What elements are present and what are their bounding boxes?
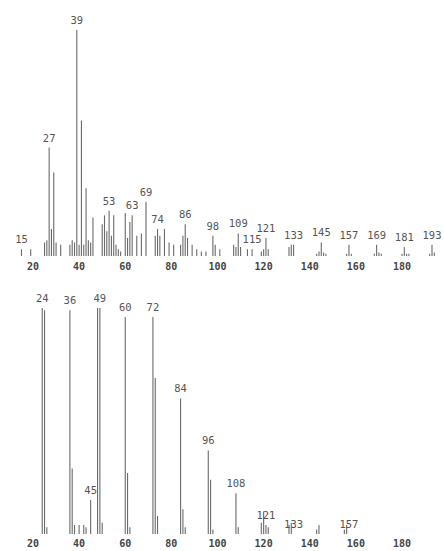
peak-label: 181 <box>395 231 414 243</box>
peak-label: 63 <box>126 199 139 211</box>
x-tick-label: 140 <box>301 261 319 272</box>
peak-label: 45 <box>84 484 97 496</box>
peak-label: 121 <box>256 509 275 521</box>
x-tick-label: 180 <box>393 538 411 549</box>
peak-label: 39 <box>70 14 83 26</box>
peak-label: 193 <box>422 229 441 241</box>
x-tick-label: 100 <box>208 261 226 272</box>
peak-label: 133 <box>284 518 303 530</box>
peak-label: 98 <box>207 220 220 232</box>
x-tick-label: 160 <box>347 538 365 549</box>
peak-label: 157 <box>339 518 358 530</box>
peak-label: 109 <box>229 217 248 229</box>
peak-label: 24 <box>36 292 49 304</box>
peak-label: 121 <box>256 222 275 234</box>
x-tick-label: 60 <box>119 538 131 549</box>
peak-label: 49 <box>94 292 107 304</box>
x-tick-label: 40 <box>73 538 85 549</box>
mass-spectrum-bottom: 2436454960728496108121133157204060801001… <box>0 275 444 551</box>
peak-label: 60 <box>119 301 132 313</box>
peak-label: 69 <box>140 186 153 198</box>
peak-label: 108 <box>226 477 245 489</box>
x-tick-label: 80 <box>165 261 177 272</box>
x-tick-label: 180 <box>393 261 411 272</box>
peak-label: 72 <box>147 301 160 313</box>
x-tick-label: 100 <box>208 538 226 549</box>
peak-label: 145 <box>312 226 331 238</box>
peak-label: 74 <box>151 213 164 225</box>
peak-label: 96 <box>202 434 215 446</box>
peak-label: 115 <box>243 233 262 245</box>
x-tick-label: 120 <box>255 538 273 549</box>
x-tick-label: 160 <box>347 261 365 272</box>
peak-label: 157 <box>339 229 358 241</box>
x-tick-label: 20 <box>27 261 39 272</box>
x-tick-label: 60 <box>119 261 131 272</box>
peak-label: 36 <box>64 294 77 306</box>
peak-label: 84 <box>174 382 187 394</box>
peak-label: 133 <box>284 229 303 241</box>
peak-label: 27 <box>43 132 56 144</box>
peak-label: 169 <box>367 229 386 241</box>
peak-label: 86 <box>179 208 192 220</box>
x-tick-label: 140 <box>301 538 319 549</box>
peak-label: 53 <box>103 195 116 207</box>
mass-spectrum-top: 1527395363697486981091151211331451571691… <box>0 0 444 275</box>
x-tick-label: 80 <box>165 538 177 549</box>
x-tick-label: 40 <box>73 261 85 272</box>
x-tick-label: 20 <box>27 538 39 549</box>
peak-label: 15 <box>15 233 28 245</box>
x-tick-label: 120 <box>255 261 273 272</box>
